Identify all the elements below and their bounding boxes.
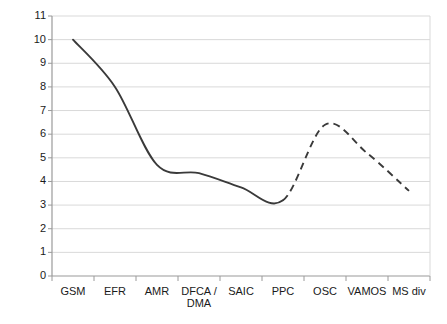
line-chart: 11109876543210 GSMEFRAMRDFCA / DMASAICPP… bbox=[0, 0, 447, 324]
x-axis-tick-label: PPC bbox=[262, 285, 304, 297]
x-axis-label-group: GSMEFRAMRDFCA / DMASAICPPCOSCVAMOSMS div bbox=[0, 0, 447, 324]
x-axis-tick-label: SAIC bbox=[220, 285, 262, 297]
x-axis-tick-label: MS div bbox=[388, 285, 430, 297]
x-axis-tick-label: GSM bbox=[52, 285, 94, 297]
x-axis-tick-label: DFCA / DMA bbox=[178, 285, 220, 309]
x-axis-tick-label: OSC bbox=[304, 285, 346, 297]
x-axis-tick-label: AMR bbox=[136, 285, 178, 297]
x-axis-tick-label: EFR bbox=[94, 285, 136, 297]
x-axis-tick-label: VAMOS bbox=[346, 285, 388, 297]
